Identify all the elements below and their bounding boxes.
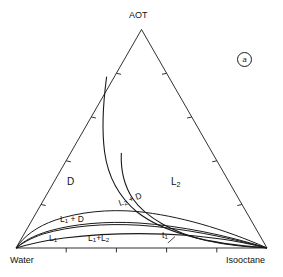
vertex-label-aot: AOT	[129, 11, 148, 20]
region-label-l2-sub: 2	[177, 180, 181, 189]
region-label-l1-plus-l2-mid: +L	[96, 233, 106, 243]
phase-boundaries	[16, 77, 266, 248]
region-label-l1-plus-l2-sub2: 2	[106, 236, 109, 243]
region-label-d: D	[67, 177, 74, 187]
ternary-phase-diagram: AOT Water Isooctane D L2 L2 + D L1 + D L…	[0, 0, 283, 277]
region-label-l1-plus-d: L1 + D	[60, 215, 84, 224]
tie-line-t1	[168, 237, 175, 243]
region-label-l1-sub: 1	[54, 236, 57, 243]
ternary-diagram-canvas	[0, 0, 283, 277]
region-label-l2: L2	[171, 177, 181, 188]
region-label-l1: L1	[49, 234, 57, 243]
tick-bottom-edge	[66, 248, 217, 252]
vertex-label-isooctane: Isooctane	[226, 256, 265, 265]
tie-line-label-t1: t1	[162, 231, 168, 240]
panel-tag-a: a	[237, 52, 252, 67]
vertex-label-water: Water	[10, 256, 34, 265]
region-label-l1-plus-d-tail: + D	[68, 214, 84, 224]
region-label-l1-plus-l2: L1+L2	[88, 234, 109, 243]
tick-left-edge	[41, 73, 121, 205]
tie-line-label-t1-sub: 1	[164, 233, 167, 240]
